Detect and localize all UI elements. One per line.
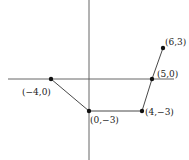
piecewise-line xyxy=(51,48,163,111)
label-6-3: (6,3) xyxy=(165,37,186,47)
label-0-neg3: (0,−3) xyxy=(90,115,119,125)
point-4-neg3 xyxy=(140,109,144,113)
coordinate-plane: (−4,0) (0,−3) (4,−3) (5,0) (6,3) xyxy=(0,0,189,160)
label-5-0: (5,0) xyxy=(157,69,178,79)
label-neg4-0: (−4,0) xyxy=(22,87,51,97)
label-4-neg3: (4,−3) xyxy=(145,107,174,117)
point-5-0 xyxy=(150,77,154,81)
point-0-neg3 xyxy=(87,109,91,113)
point-neg4-0 xyxy=(49,77,53,81)
